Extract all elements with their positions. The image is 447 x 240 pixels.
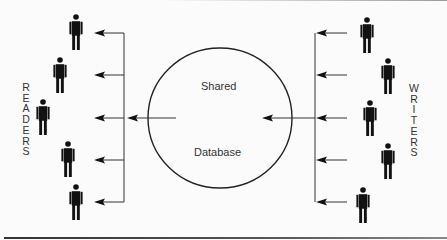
reader-arrow	[94, 72, 124, 79]
person-icon	[360, 17, 373, 53]
database-label-database: Database	[194, 146, 241, 158]
writer-arrow	[316, 199, 347, 206]
writer-figure	[356, 187, 369, 223]
reader-arrow	[94, 30, 124, 37]
database-label-shared: Shared	[201, 80, 236, 92]
writers-letter: S	[407, 147, 421, 158]
person-icon	[69, 14, 82, 50]
reader-arrow	[94, 115, 124, 122]
reader-figure	[53, 57, 66, 93]
writers-label: W R I T E R S	[407, 83, 421, 158]
bottom-border	[4, 237, 447, 239]
readers-group	[36, 14, 124, 220]
writer-arrow	[316, 157, 347, 164]
writers-to-database-arrow	[262, 115, 315, 122]
reader-figure	[36, 99, 49, 135]
reader-figure	[69, 184, 82, 220]
writer-figure	[363, 100, 376, 136]
reader-arrow	[94, 199, 124, 206]
writer-figure	[381, 58, 394, 94]
person-icon	[381, 143, 394, 179]
writer-arrow	[316, 72, 347, 79]
readers-label: R E A D E R S	[19, 82, 33, 157]
writers-group	[315, 17, 395, 223]
person-icon	[69, 184, 82, 220]
person-icon	[356, 187, 369, 223]
writer-figure	[381, 143, 394, 179]
writers-letter: E	[407, 126, 421, 137]
writer-figure	[360, 17, 373, 53]
readers-letter: S	[19, 146, 33, 157]
database-to-readers-arrow	[127, 115, 176, 122]
readers-letter: E	[19, 125, 33, 136]
reader-figure	[61, 141, 74, 177]
writer-arrow	[316, 30, 347, 37]
person-icon	[363, 100, 376, 136]
diagram-canvas: Shared Database R E A D E R S W R I T E …	[0, 0, 447, 240]
person-icon	[61, 141, 74, 177]
reader-arrow	[94, 157, 124, 164]
person-icon	[53, 57, 66, 93]
person-icon	[36, 99, 49, 135]
person-icon	[381, 58, 394, 94]
readers-writers-diagram	[0, 0, 447, 240]
writer-arrow	[316, 115, 347, 122]
reader-figure	[69, 14, 82, 50]
